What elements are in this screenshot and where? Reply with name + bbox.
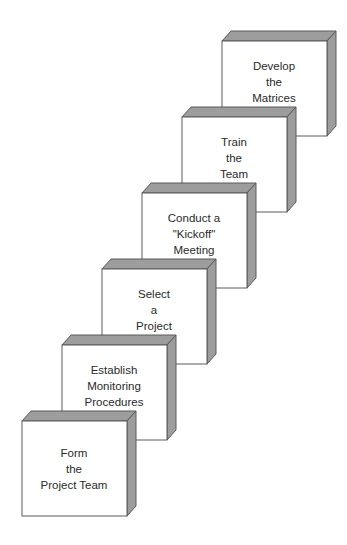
box-top-face: [182, 107, 296, 117]
box-top-face: [22, 411, 136, 421]
step-6-label: Develop the Matrices: [222, 58, 326, 106]
step-6-line-2: the: [222, 74, 326, 90]
step-3-line-2: a: [102, 302, 206, 318]
box-top-face: [222, 31, 336, 41]
box-top-face: [62, 335, 176, 345]
step-5-line-1: Train: [182, 134, 286, 150]
step-4-line-1: Conduct a: [142, 210, 246, 226]
step-5-line-2: the: [182, 150, 286, 166]
step-2-line-1: Establish: [62, 362, 166, 378]
box-top-face: [102, 259, 216, 269]
step-6-line-1: Develop: [222, 58, 326, 74]
box-side-face: [287, 107, 296, 212]
box-side-face: [247, 183, 256, 288]
staircase-diagram: Form the Project Team Establish Monitori…: [0, 0, 347, 545]
box-side-face: [327, 31, 336, 136]
step-1-line-2: the: [22, 461, 126, 477]
step-3-line-3: Project: [102, 318, 206, 334]
step-2-line-3: Procedures: [62, 394, 166, 410]
box-top-face: [142, 183, 256, 193]
step-2-label: Establish Monitoring Procedures: [62, 362, 166, 410]
step-1-label: Form the Project Team: [22, 445, 126, 493]
box-side-face: [167, 335, 176, 440]
step-4-label: Conduct a "Kickoff" Meeting: [142, 210, 246, 258]
box-side-face: [127, 411, 136, 516]
step-4-line-2: "Kickoff": [142, 226, 246, 242]
box-side-face: [207, 259, 216, 364]
step-3-label: Select a Project: [102, 286, 206, 334]
step-5-line-3: Team: [182, 166, 286, 182]
step-3-line-1: Select: [102, 286, 206, 302]
step-1-line-1: Form: [22, 445, 126, 461]
step-5-label: Train the Team: [182, 134, 286, 182]
step-1-line-3: Project Team: [22, 477, 126, 493]
step-4-line-3: Meeting: [142, 242, 246, 258]
step-6-line-3: Matrices: [222, 90, 326, 106]
step-2-line-2: Monitoring: [62, 378, 166, 394]
